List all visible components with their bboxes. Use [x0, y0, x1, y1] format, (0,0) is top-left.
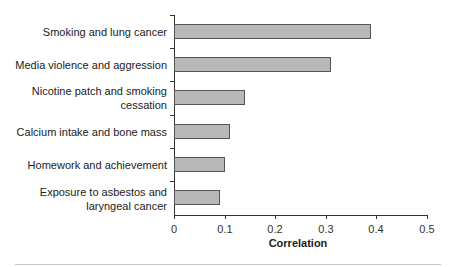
bar: [174, 157, 225, 172]
bar: [174, 190, 220, 205]
category-label: Exposure to asbestos and laryngeal cance…: [0, 185, 167, 213]
category-label: Smoking and lung cancer: [0, 25, 167, 39]
category-label: Media violence and aggression: [0, 58, 167, 72]
x-tick: [427, 215, 428, 219]
x-tick-label: 0.3: [311, 223, 341, 235]
x-tick-label: 0.4: [361, 223, 391, 235]
x-tick: [225, 215, 226, 219]
y-tick: [170, 48, 174, 49]
bar: [174, 124, 230, 139]
category-label: Homework and achievement: [0, 158, 167, 172]
correlation-bar-chart: Smoking and lung cancer Media violence a…: [0, 0, 456, 267]
category-label-line: laryngeal cancer: [0, 199, 167, 213]
bottom-divider: [15, 264, 441, 265]
y-tick: [170, 148, 174, 149]
y-tick: [170, 15, 174, 16]
bar: [174, 24, 371, 39]
x-tick-label: 0.2: [260, 223, 290, 235]
category-label: Nicotine patch and smoking cessation: [0, 84, 167, 112]
x-tick: [174, 215, 175, 219]
bar: [174, 90, 245, 105]
x-tick-label: 0.1: [210, 223, 240, 235]
x-axis-title: Correlation: [268, 237, 328, 249]
x-tick: [326, 215, 327, 219]
y-tick: [170, 181, 174, 182]
y-axis: [174, 15, 175, 215]
y-tick: [170, 81, 174, 82]
y-tick: [170, 115, 174, 116]
x-tick: [275, 215, 276, 219]
category-label-line: Exposure to asbestos and: [0, 185, 167, 199]
x-tick-label: 0.5: [412, 223, 442, 235]
x-tick-label: 0: [159, 223, 189, 235]
x-axis: [174, 215, 428, 216]
category-label-line: Nicotine patch and smoking: [0, 84, 167, 98]
category-label: Calcium intake and bone mass: [0, 125, 167, 139]
category-label-line: cessation: [0, 98, 167, 112]
x-tick: [376, 215, 377, 219]
bar: [174, 57, 331, 72]
